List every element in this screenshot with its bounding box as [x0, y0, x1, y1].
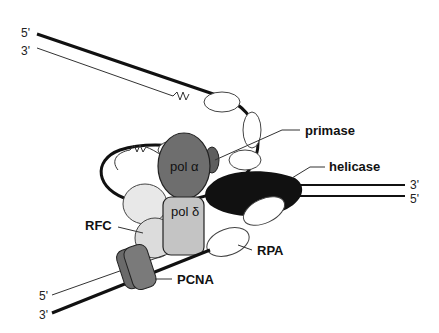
lagging-nascent-strand	[37, 48, 189, 100]
rfc-label: RFC	[85, 218, 112, 233]
diagram-canvas: pol α pol δ primase helicase RFC RPA PCN…	[0, 0, 439, 333]
replication-fork-diagram: pol α pol δ primase helicase RFC RPA PCN…	[0, 0, 439, 333]
top-left-5prime-label: 5'	[21, 26, 30, 40]
helicase-label: helicase	[329, 159, 380, 174]
pcna-label: PCNA	[177, 272, 214, 287]
pol-delta-label: pol δ	[171, 204, 199, 219]
rpa-label: RPA	[257, 243, 284, 258]
rpa-oval	[229, 150, 261, 170]
bottom-left-5prime-label: 5'	[39, 289, 48, 303]
right-3prime-label: 3'	[410, 178, 419, 192]
top-left-3prime-label: 3'	[21, 44, 30, 58]
pol-alpha-label: pol α	[170, 159, 199, 174]
right-5prime-label: 5'	[410, 192, 419, 206]
rfc-circle-upper	[123, 184, 167, 224]
bottom-left-3prime-label: 3'	[39, 308, 48, 322]
primase-label: primase	[305, 123, 355, 138]
rpa-oval	[203, 222, 253, 261]
rpa-oval	[204, 92, 240, 112]
helicase-callout-line	[292, 167, 310, 178]
rpa-oval	[243, 112, 261, 148]
